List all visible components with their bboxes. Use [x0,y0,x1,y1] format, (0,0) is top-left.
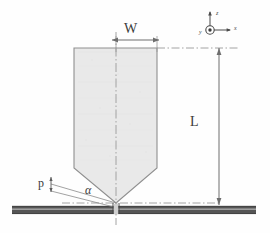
label-cone-angle: α [85,184,91,196]
body-shape [74,48,157,203]
tip-contact-detail [113,203,119,214]
coordinate-axes [206,11,231,34]
label-length: L [190,115,199,129]
axis-x-arrowhead [227,28,231,32]
dimension-L-arrow-top [217,48,222,55]
label-axis-y: y [199,29,202,35]
label-width: W [124,22,137,36]
axis-z-arrowhead [208,11,212,15]
technical-diagram: W L α p z x y [0,0,270,233]
dimension-W-arrow-left [112,38,118,43]
label-axis-x: x [234,25,237,31]
label-axis-z: z [216,10,218,16]
dimension-W-arrow-right [153,38,159,43]
axis-origin-dot [208,28,211,31]
label-plate-thickness: p [38,177,44,189]
dimension-L-arrow-bottom [217,198,222,205]
dimension-L [217,48,222,205]
base-plate [12,206,256,214]
plate-highlight [12,208,256,210]
dimension-p-arrow-top [49,177,52,181]
